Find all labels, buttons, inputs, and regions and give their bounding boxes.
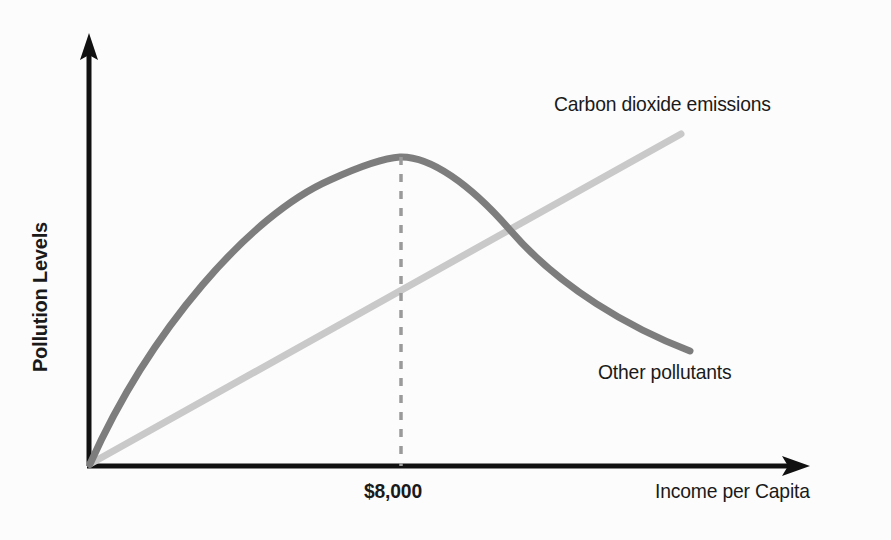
series-other-pollutants bbox=[90, 157, 690, 464]
series-label-other-pollutants: Other pollutants bbox=[598, 360, 731, 384]
x-axis-title: Income per Capita bbox=[655, 479, 810, 503]
series-label-carbon-dioxide-emissions: Carbon dioxide emissions bbox=[554, 92, 771, 116]
chart-canvas bbox=[0, 0, 891, 540]
y-axis-title: Pollution Levels bbox=[28, 222, 52, 372]
chart-figure: Carbon dioxide emissions Other pollutant… bbox=[0, 0, 891, 540]
x-axis-tick-label-8000: $8,000 bbox=[364, 479, 422, 503]
